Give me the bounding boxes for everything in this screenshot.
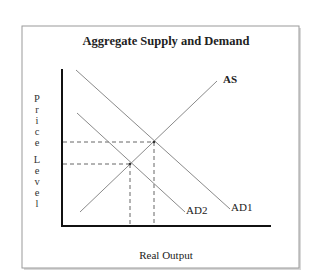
y-label-letter: P [34,93,40,104]
y-label-letter: e [35,165,40,176]
y-label-letter: c [35,126,40,137]
y-label-letter: v [34,176,40,187]
ad2-label: AD2 [186,204,207,216]
equilibrium-point-ad2 [129,163,132,166]
equilibrium-point-ad1 [153,141,156,144]
aggregate-supply-demand-diagram: Aggregate Supply and Demand P r i c e L … [0,0,315,277]
diagram-frame [22,26,299,268]
y-label-letter: e [35,137,40,148]
x-axis-label: Real Output [139,249,192,261]
as-label: AS [223,73,237,85]
diagram-title: Aggregate Supply and Demand [83,34,250,48]
y-label-letter: e [35,187,40,198]
y-label-letter: L [34,154,40,165]
y-label-letter: l [36,198,39,209]
y-label-letter: i [36,115,39,126]
y-label-letter: r [35,104,39,115]
ad1-label: AD1 [231,201,252,213]
